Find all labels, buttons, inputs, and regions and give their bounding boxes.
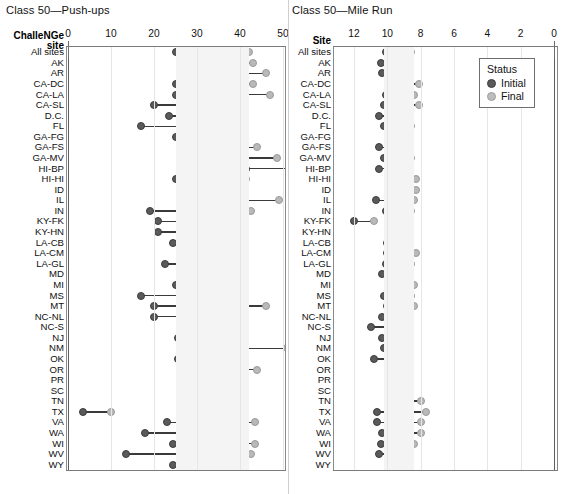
- row-label-right-ky-hn: KY-HN: [288, 227, 331, 237]
- row-label-left-fl: FL: [0, 121, 64, 131]
- data-point-final: [415, 80, 423, 88]
- row-label-right-il: IL: [288, 195, 331, 205]
- row-label-right-hi-bp: HI-BP: [288, 164, 331, 174]
- data-point-final: [253, 366, 261, 374]
- gridline-right-8: [421, 47, 422, 470]
- row-label-left-ca-sl: CA-SL: [0, 100, 64, 110]
- data-point-final: [262, 302, 270, 310]
- row-label-left-wi: WI: [0, 439, 64, 449]
- gridline-right-2: [521, 47, 522, 470]
- row-label-left-d-c-: D.C.: [0, 111, 64, 121]
- data-point-initial: [367, 323, 375, 331]
- panel-divider: [288, 0, 289, 494]
- row-label-right-fl: FL: [288, 121, 331, 131]
- data-point-initial: [154, 228, 162, 236]
- plot-border-right-right: [557, 47, 558, 470]
- data-point-initial: [163, 418, 171, 426]
- data-point-final: [415, 101, 423, 109]
- row-label-right-ky-fk: KY-FK: [288, 216, 331, 226]
- row-label-right-va: VA: [288, 417, 331, 427]
- row-label-left-pr: PR: [0, 375, 64, 385]
- axis-tick-right-10: 10: [382, 28, 393, 39]
- legend-dot-final-icon: [487, 92, 496, 101]
- data-point-initial: [165, 112, 173, 120]
- gridline-right-6: [454, 47, 455, 470]
- legend-title: Status: [487, 63, 526, 75]
- row-label-left-nc-s: NC-S: [0, 322, 64, 332]
- axis-tick-left-0: 0: [65, 28, 71, 39]
- data-point-final: [422, 408, 430, 416]
- plot-area-milerun: [333, 46, 558, 471]
- row-label-left-ga-mv: GA-MV: [0, 153, 64, 163]
- connector-line: [246, 168, 286, 170]
- axis-tick-labels-milerun: 121086420: [288, 28, 573, 42]
- panel-title-pushups: Class 50—Push-ups: [6, 4, 110, 16]
- row-label-left-mi: MI: [0, 280, 64, 290]
- axis-tick-left-10: 10: [105, 28, 116, 39]
- panel-milerun: Class 50—Mile Run Site 121086420 All sit…: [288, 0, 573, 494]
- row-label-right-or: OR: [288, 365, 331, 375]
- data-point-initial: [154, 217, 162, 225]
- gridline-right-4: [487, 47, 488, 470]
- row-label-left-va: VA: [0, 417, 64, 427]
- legend-item-initial: Initial: [487, 77, 526, 89]
- row-label-right-mi: MI: [288, 280, 331, 290]
- dumbbell-chart-figure: Class 50—Push-ups ChalleNGe site 0102030…: [0, 0, 573, 494]
- row-label-right-wv: WV: [288, 449, 331, 459]
- row-label-right-nc-nl: NC-NL: [288, 312, 331, 322]
- gridline-right-10: [387, 47, 388, 470]
- data-point-final: [253, 143, 261, 151]
- row-label-right-ga-mv: GA-MV: [288, 153, 331, 163]
- legend: Status Initial Final: [479, 58, 535, 108]
- data-point-final: [266, 91, 274, 99]
- row-label-left-ak: AK: [0, 58, 64, 68]
- gridline-left-30: [197, 47, 198, 470]
- row-label-left-la-gl: LA-GL: [0, 259, 64, 269]
- row-label-left-ga-fg: GA-FG: [0, 132, 64, 142]
- gridline-left-40: [240, 47, 241, 470]
- row-label-right-ak: AK: [288, 58, 331, 68]
- data-point-final: [262, 69, 270, 77]
- row-label-right-tn: TN: [288, 396, 331, 406]
- data-point-initial: [137, 292, 145, 300]
- row-label-right-ar: AR: [288, 68, 331, 78]
- axis-tick-right-12: 12: [348, 28, 359, 39]
- data-point-final: [251, 418, 259, 426]
- row-label-right-d-c-: D.C.: [288, 111, 331, 121]
- row-label-right-la-cb: LA-CB: [288, 238, 331, 248]
- panel-title-milerun: Class 50—Mile Run: [292, 4, 393, 16]
- row-label-right-md: MD: [288, 269, 331, 279]
- data-point-initial: [122, 450, 130, 458]
- row-label-left-id: ID: [0, 185, 64, 195]
- row-label-right-nm: NM: [288, 343, 331, 353]
- axis-tick-right-4: 4: [484, 28, 490, 39]
- row-label-left-wv: WV: [0, 449, 64, 459]
- row-label-right-wy: WY: [288, 460, 331, 470]
- gridline-left-20: [154, 47, 155, 470]
- data-point-initial: [375, 143, 383, 151]
- row-label-left-hi-hi: HI-HI: [0, 174, 64, 184]
- axis-tick-mark: [554, 41, 555, 59]
- row-label-right-sc: SC: [288, 386, 331, 396]
- row-label-left-hi-bp: HI-BP: [0, 164, 64, 174]
- row-label-right-pr: PR: [288, 375, 331, 385]
- data-point-initial: [146, 207, 154, 215]
- plot-area-pushups: [66, 46, 286, 471]
- row-label-right-hi-hi: HI-HI: [288, 174, 331, 184]
- row-label-right-ga-fs: GA-FS: [288, 142, 331, 152]
- row-label-left-ky-hn: KY-HN: [0, 227, 64, 237]
- axis-tick-left-30: 30: [191, 28, 202, 39]
- data-point-final: [249, 80, 257, 88]
- row-label-left-nc-nl: NC-NL: [0, 312, 64, 322]
- gridline-left-50: [283, 47, 284, 470]
- plot-border-left-right: [333, 47, 334, 470]
- data-point-initial: [375, 450, 383, 458]
- legend-dot-initial-icon: [487, 79, 496, 88]
- row-label-right-wa: WA: [288, 428, 331, 438]
- data-point-initial: [370, 355, 378, 363]
- axis-tick-right-0: 0: [551, 28, 557, 39]
- panel-pushups: Class 50—Push-ups ChalleNGe site 0102030…: [0, 0, 288, 494]
- row-label-left-wa: WA: [0, 428, 64, 438]
- row-label-left-tn: TN: [0, 396, 64, 406]
- row-group-milerun: [333, 47, 558, 470]
